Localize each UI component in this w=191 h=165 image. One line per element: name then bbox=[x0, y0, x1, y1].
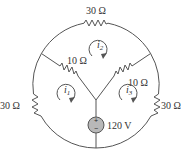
resistor-lower-right-label: 30 Ω bbox=[161, 100, 181, 111]
resistor-lower-right bbox=[151, 94, 160, 116]
mesh-current-i1-label: i1 bbox=[64, 84, 70, 97]
source-plus: + bbox=[94, 117, 98, 124]
resistor-lower-left-label: 30 Ω bbox=[0, 100, 20, 111]
source-minus: − bbox=[94, 125, 98, 132]
voltage-source: + − bbox=[88, 117, 104, 133]
resistor-upper-left-label: 10 Ω bbox=[67, 55, 87, 66]
resistor-upper-right-label: 10 Ω bbox=[128, 77, 148, 88]
source-label: 120 V bbox=[107, 120, 132, 131]
resistor-top bbox=[84, 20, 108, 26]
resistor-top-label: 30 Ω bbox=[86, 5, 106, 16]
circuit-diagram: 30 Ω 30 Ω 30 Ω 10 Ω 10 Ω + − 120 V i2 bbox=[0, 0, 191, 165]
resistor-lower-left bbox=[32, 94, 41, 116]
